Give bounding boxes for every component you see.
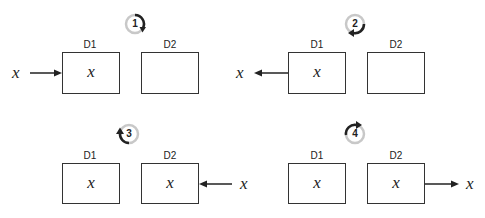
panel-step-4: 4 D1 x D2 x x: [0, 0, 485, 218]
arrow-right-icon: [0, 0, 485, 218]
